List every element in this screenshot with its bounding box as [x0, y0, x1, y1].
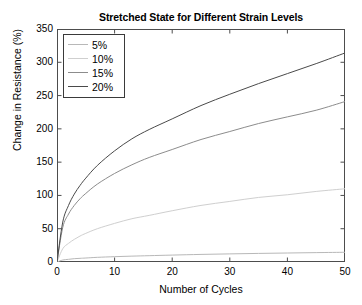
- legend-item: 15%: [66, 66, 122, 80]
- chart-legend: 5% 10% 15% 20%: [63, 34, 125, 98]
- legend-item-label: 5%: [92, 40, 107, 51]
- legend-item-label: 15%: [92, 68, 113, 79]
- legend-line-swatch: [68, 40, 88, 50]
- x-tick-label: 10: [95, 267, 135, 277]
- legend-line-swatch: [68, 82, 88, 92]
- legend-item-label: 10%: [92, 54, 113, 65]
- plot-area: 5% 10% 15% 20%: [57, 29, 345, 262]
- x-tick-label: 20: [152, 267, 192, 277]
- x-axis-label: Number of Cycles: [57, 283, 345, 295]
- x-tick-label: 40: [267, 267, 307, 277]
- y-tick-label: 0: [13, 257, 53, 267]
- y-tick-label: 50: [13, 224, 53, 234]
- x-tick-label: 30: [210, 267, 250, 277]
- x-tick-label: 0: [37, 267, 77, 277]
- x-tick-label: 50: [325, 267, 362, 277]
- y-axis-label: Change in Resistance (%): [11, 10, 23, 170]
- y-tick-label: 100: [13, 190, 53, 200]
- legend-item: 10%: [66, 52, 122, 66]
- chart-title: Stretched State for Different Strain Lev…: [57, 11, 345, 23]
- legend-line-swatch: [68, 68, 88, 78]
- legend-item: 20%: [66, 80, 122, 94]
- legend-item-label: 20%: [92, 82, 113, 93]
- legend-line-swatch: [68, 54, 88, 64]
- x-axis-tick-labels: 01020304050: [57, 267, 345, 281]
- chart-figure: Stretched State for Different Strain Lev…: [0, 0, 362, 305]
- legend-item: 5%: [66, 38, 122, 52]
